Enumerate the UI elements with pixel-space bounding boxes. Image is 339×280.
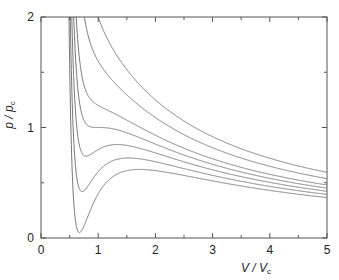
chart: 012345 012 V / Vc p / pc bbox=[0, 0, 339, 280]
y-tick-labels: 012 bbox=[27, 10, 34, 245]
y-tick-label: 2 bbox=[27, 10, 34, 24]
curves-group bbox=[68, 0, 327, 233]
ticks-group bbox=[41, 17, 327, 238]
isotherm-curve-1 bbox=[70, 0, 327, 194]
y-tick-label: 0 bbox=[27, 231, 34, 245]
x-tick-label: 3 bbox=[209, 243, 216, 257]
isotherm-curve-3 bbox=[72, 0, 327, 188]
x-tick-label: 4 bbox=[266, 243, 273, 257]
y-axis-label: p / pc bbox=[2, 101, 17, 129]
x-tick-label: 5 bbox=[324, 243, 331, 257]
x-tick-label: 0 bbox=[38, 243, 45, 257]
x-tick-label: 1 bbox=[95, 243, 102, 257]
x-tick-labels: 012345 bbox=[38, 243, 331, 257]
isotherm-curve-4 bbox=[74, 0, 327, 185]
isotherm-curve-6 bbox=[85, 0, 327, 172]
x-tick-label: 2 bbox=[152, 243, 159, 257]
isotherm-curve-0 bbox=[68, 0, 327, 233]
x-axis-label: V / Vc bbox=[241, 261, 271, 276]
isotherm-curve-5 bbox=[78, 0, 327, 179]
y-tick-label: 1 bbox=[27, 121, 34, 135]
plot-frame bbox=[41, 17, 327, 238]
